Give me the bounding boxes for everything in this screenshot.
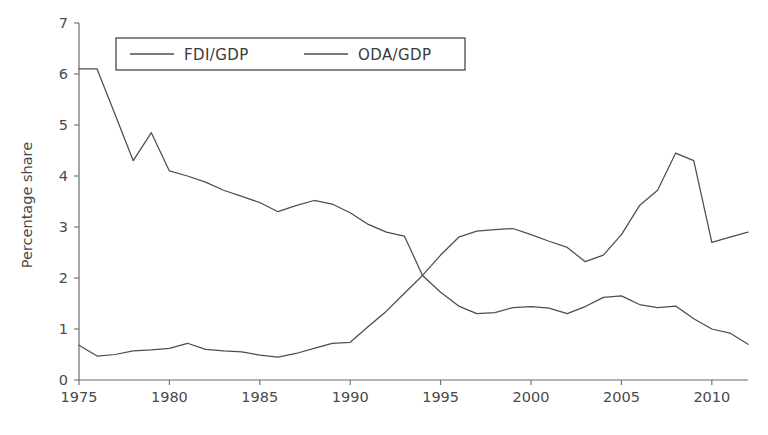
data-series-group [79, 69, 748, 357]
x-tick-label: 2010 [693, 389, 730, 405]
line-chart: Percentage share 01234567 19751980198519… [0, 0, 768, 435]
x-tick-label: 1990 [332, 389, 369, 405]
chart-container: Percentage share 01234567 19751980198519… [0, 0, 768, 435]
y-axis-title-label: Percentage share [19, 142, 35, 268]
x-tick-label: 1980 [151, 389, 188, 405]
y-tick-label: 4 [59, 168, 68, 184]
x-tick-label: 1995 [422, 389, 459, 405]
y-tick-label: 7 [59, 15, 68, 31]
x-tick-label: 2000 [513, 389, 550, 405]
legend-label-fdi-gdp: FDI/GDP [184, 46, 249, 64]
y-tick-label: 5 [59, 117, 68, 133]
x-axis-ticks: 19751980198519901995200020052010 [61, 380, 731, 405]
x-tick-label: 2005 [603, 389, 640, 405]
y-tick-label: 6 [59, 66, 68, 82]
y-tick-label: 2 [59, 270, 68, 286]
y-axis-title: Percentage share [19, 142, 35, 268]
y-tick-label: 1 [59, 321, 68, 337]
y-tick-label: 0 [59, 372, 68, 388]
series-line-oda-gdp [79, 69, 748, 344]
chart-legend: FDI/GDPODA/GDP [116, 38, 465, 70]
y-axis-ticks: 01234567 [59, 15, 79, 388]
x-tick-label: 1985 [241, 389, 278, 405]
legend-label-oda-gdp: ODA/GDP [358, 46, 431, 64]
x-tick-label: 1975 [61, 389, 98, 405]
y-tick-label: 3 [59, 219, 68, 235]
